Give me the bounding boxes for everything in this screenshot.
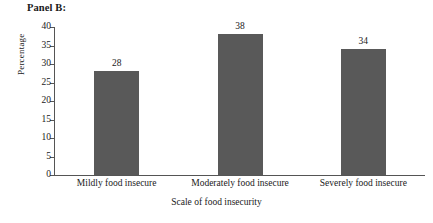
bar: 38 — [218, 34, 263, 175]
bar-value-label: 38 — [235, 22, 245, 32]
x-axis-line — [54, 175, 425, 176]
y-tick-label: 15 — [42, 115, 52, 125]
y-tick-label: 20 — [42, 96, 52, 106]
x-tick-label: Severely food insecure — [320, 179, 407, 189]
y-tick-label: 25 — [42, 78, 52, 88]
plot-area: 0510152025303540 283834 Mildly food inse… — [55, 27, 425, 175]
y-tick-label: 0 — [46, 170, 51, 180]
y-tick-label: 35 — [42, 41, 52, 51]
y-tick-label: 30 — [42, 59, 52, 69]
bar-value-label: 28 — [112, 59, 122, 69]
y-tick-label: 5 — [46, 152, 51, 162]
bar: 34 — [341, 49, 386, 175]
y-axis-title: Percentage — [16, 34, 26, 75]
x-tick-label: Moderately food insecure — [191, 179, 289, 189]
x-axis-title: Scale of food insecurity — [0, 197, 433, 207]
x-tick-label: Mildly food insecure — [77, 179, 157, 189]
page-title: Panel B: — [27, 2, 66, 13]
bar: 28 — [94, 71, 139, 175]
y-tick-label: 40 — [42, 22, 52, 32]
y-tick-label: 10 — [42, 133, 52, 143]
bar-value-label: 34 — [359, 37, 369, 47]
